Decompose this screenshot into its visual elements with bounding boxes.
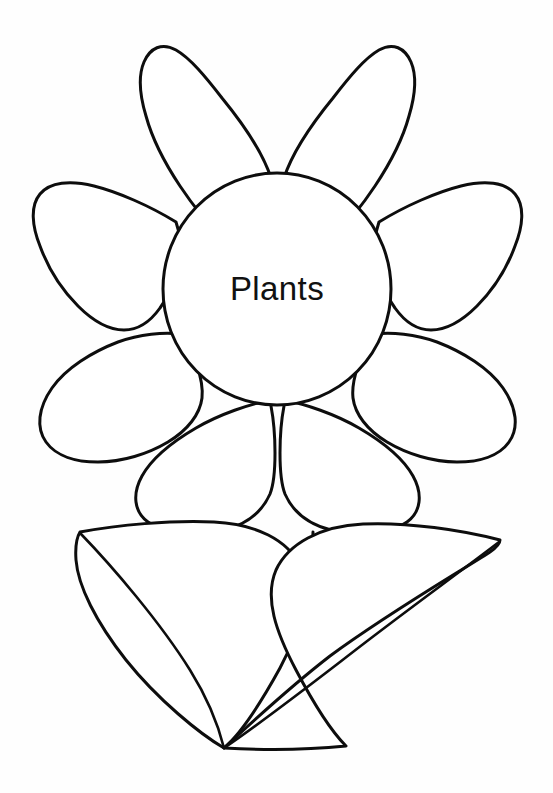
center-label: Plants [230, 270, 324, 307]
flower-illustration: Plants [0, 0, 553, 793]
coloring-page-canvas: Plants [0, 0, 553, 793]
petal-upper-left [33, 183, 180, 330]
petal-upper-right [375, 183, 522, 330]
